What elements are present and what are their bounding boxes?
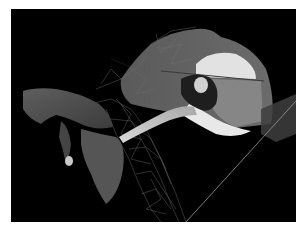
render-viewport <box>11 9 296 222</box>
anatomy-rendering <box>11 9 296 222</box>
auricle-lower <box>81 129 124 204</box>
auricle-upper <box>23 88 113 128</box>
ear-canal <box>119 106 197 143</box>
lobule-highlight <box>65 156 73 166</box>
ossicle-highlight <box>194 77 208 93</box>
